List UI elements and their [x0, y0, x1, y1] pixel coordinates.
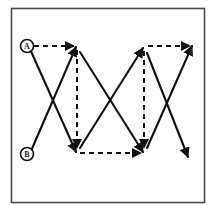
node-a-text: A	[24, 42, 30, 51]
node-label-b: B	[21, 148, 34, 161]
node-label-a: A	[21, 40, 34, 53]
node-b-text: B	[24, 150, 30, 159]
zigzag-path-diagram: A B	[0, 0, 216, 211]
figure-container: A B	[0, 0, 216, 211]
